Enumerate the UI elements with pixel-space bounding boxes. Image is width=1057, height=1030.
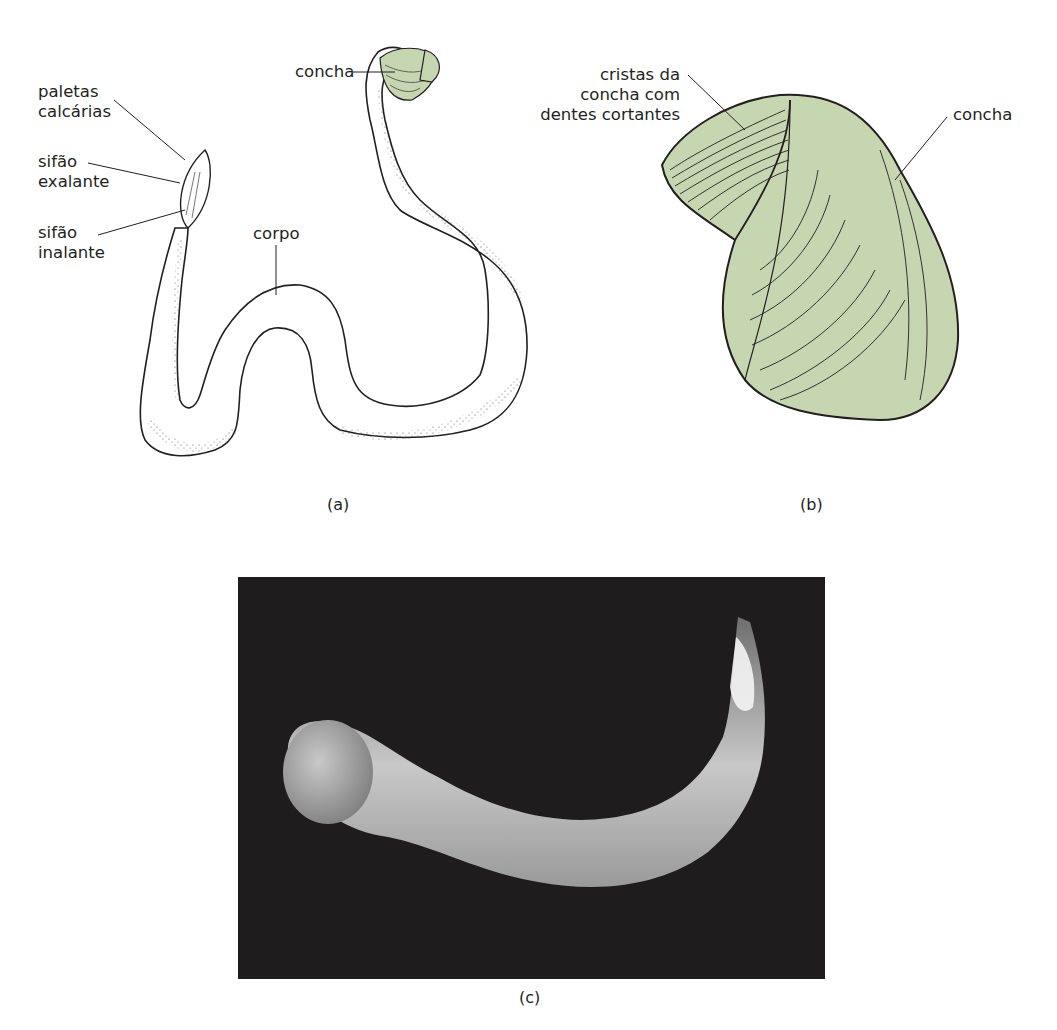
caption-c: (c) — [519, 988, 540, 1007]
label-paletas-calcarias: paletas calcárias — [38, 82, 111, 122]
caption-a: (a) — [327, 495, 349, 514]
label-line: cristas da — [530, 65, 680, 85]
label-line: calcárias — [38, 102, 111, 122]
label-line: dentes cortantes — [530, 105, 680, 125]
label-line: sifão — [38, 152, 110, 172]
label-line: inalante — [38, 243, 105, 263]
label-line: exalante — [38, 172, 110, 192]
label-line: paletas — [38, 82, 111, 102]
label-line: concha com — [530, 85, 680, 105]
caption-b: (b) — [800, 495, 823, 514]
photo-content — [238, 577, 825, 979]
label-sifao-inalante: sifão inalante — [38, 223, 105, 263]
label-line: sifão — [38, 223, 105, 243]
label-sifao-exalante: sifão exalante — [38, 152, 110, 192]
label-concha-a: concha — [295, 62, 354, 82]
body-outline — [140, 47, 527, 455]
shell-drawing — [662, 95, 958, 420]
label-corpo: corpo — [253, 224, 300, 244]
paletas-shape — [181, 150, 211, 228]
head-shell-photo — [283, 720, 373, 824]
label-concha-b: concha — [953, 105, 1012, 125]
shell-outline — [662, 95, 958, 420]
shipworm-body-drawing — [0, 0, 1057, 560]
shipworm-photograph — [238, 577, 825, 979]
label-cristas-da-concha: cristas da concha com dentes cortantes — [530, 65, 680, 125]
